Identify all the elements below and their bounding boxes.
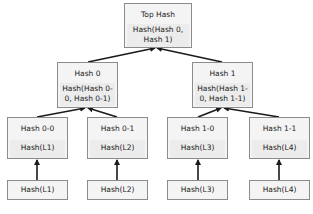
node-content: Hash(L4)	[252, 140, 307, 158]
node-hash-1-1: Hash 1-1 Hash(L4)	[249, 117, 310, 159]
arrow-hash10-to-hash1	[198, 108, 221, 117]
node-content: Hash(L4)	[263, 185, 297, 195]
node-title: Hash 1-0	[168, 124, 227, 134]
leaf-l1: Hash(L1)	[7, 180, 68, 200]
leaf-l2: Hash(L2)	[87, 180, 148, 200]
node-hash-0-1: Hash 0-1 Hash(L2)	[87, 117, 148, 159]
node-content: Hash(L2)	[101, 185, 135, 195]
leaf-l3: Hash(L3)	[167, 180, 228, 200]
node-hash-0: Hash 0 Hash(Hash 0-0, Hash 0-1)	[57, 62, 118, 108]
node-title: Hash 1-1	[250, 124, 309, 134]
node-title: Hash 0-1	[88, 124, 147, 134]
node-content: Hash(L1)	[10, 140, 65, 158]
node-content: Hash(Hash 0-0, Hash 0-1)	[60, 83, 115, 106]
node-title: Hash 0-0	[8, 124, 67, 134]
node-hash-1-0: Hash 1-0 Hash(L3)	[167, 117, 228, 159]
node-title: Hash 1	[193, 69, 252, 79]
arrow-hash0-to-top	[88, 48, 155, 62]
node-content: Hash(L3)	[181, 185, 215, 195]
leaf-l4: Hash(L4)	[249, 180, 310, 200]
arrow-hash11-to-hash1	[224, 108, 279, 117]
node-content: Hash(L1)	[21, 185, 55, 195]
arrow-hash01-to-hash0	[88, 108, 117, 117]
node-content: Hash(L3)	[170, 140, 225, 158]
node-hash-1: Hash 1 Hash(Hash 1-0, Hash 1-1)	[192, 62, 253, 108]
node-hash-0-0: Hash 0-0 Hash(L1)	[7, 117, 68, 159]
node-title: Top Hash	[125, 10, 191, 20]
node-content: Hash(Hash 1-0, Hash 1-1)	[195, 83, 250, 106]
node-top-hash: Top Hash Hash(Hash 0, Hash 1)	[124, 3, 192, 48]
node-title: Hash 0	[58, 69, 117, 79]
node-content: Hash(Hash 0, Hash 1)	[127, 24, 189, 47]
arrow-hash00-to-hash0	[37, 108, 85, 117]
arrow-hash1-to-top	[157, 48, 222, 62]
node-content: Hash(L2)	[90, 140, 145, 158]
